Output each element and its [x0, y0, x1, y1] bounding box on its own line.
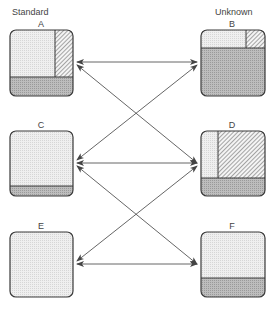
box-d	[201, 131, 265, 196]
connection-arrows	[77, 62, 197, 264]
box-c	[10, 131, 73, 196]
box-f	[201, 232, 265, 297]
box-e	[10, 232, 73, 297]
comparison-diagram	[0, 0, 274, 309]
box-b	[201, 30, 265, 96]
box-a	[10, 30, 73, 96]
